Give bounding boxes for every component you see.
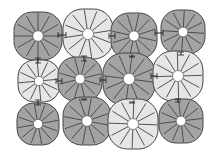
cell-r3c2 (63, 97, 111, 145)
cell-center-hole (173, 71, 184, 82)
cell-r3c3 (108, 99, 158, 149)
diagram-canvas (0, 0, 219, 155)
cell-r2c4 (153, 51, 203, 101)
cell-center-hole (128, 119, 139, 130)
cell-center-hole (176, 116, 186, 126)
cell-center-hole (34, 76, 43, 85)
cell-center-hole (33, 119, 42, 128)
cell-r1c4 (161, 10, 205, 54)
cell-center-hole (123, 73, 134, 84)
cell-r2c2 (58, 57, 102, 101)
cell-center-hole (82, 116, 93, 127)
cell-r1c1 (14, 12, 62, 60)
cell-r3c1 (17, 103, 59, 145)
cell-center-hole (83, 29, 94, 40)
cell-r3c4 (159, 99, 203, 143)
cell-r2c3 (103, 53, 155, 105)
cell-center-hole (33, 31, 44, 42)
cell-center-hole (129, 31, 139, 41)
cell-r2c1 (18, 60, 60, 102)
cell-r1c2 (63, 9, 113, 59)
cell-r1c3 (111, 13, 157, 59)
cell-center-hole (178, 27, 188, 37)
cell-grid-diagram (0, 0, 219, 155)
segment-spoke (183, 75, 202, 76)
segment-spoke (177, 52, 178, 71)
cell-center-hole (75, 74, 85, 84)
segment-spoke (178, 81, 179, 100)
